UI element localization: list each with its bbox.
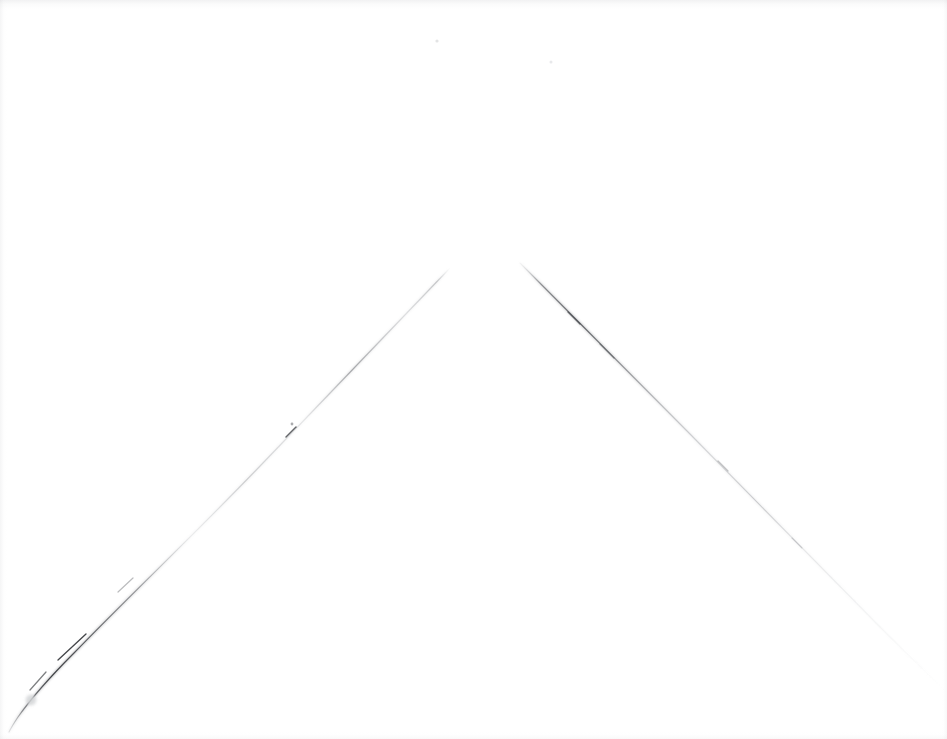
smudge-dot	[26, 695, 37, 706]
stroke-accent	[718, 461, 728, 471]
dust-speck	[550, 61, 553, 64]
stroke-accent	[600, 344, 614, 358]
left-diagonal-stroke	[9, 268, 450, 732]
pencil-marks-layer	[0, 0, 947, 739]
stroke-accent	[30, 672, 46, 690]
dust-speck	[291, 423, 294, 426]
dust-speck	[435, 39, 438, 42]
stroke-accent	[568, 312, 580, 324]
stroke-accent	[118, 578, 133, 592]
stroke-accent	[792, 538, 802, 548]
right-diagonal-stroke	[520, 263, 946, 691]
scanned-page: Blank white scanned page with two faint …	[0, 0, 947, 739]
